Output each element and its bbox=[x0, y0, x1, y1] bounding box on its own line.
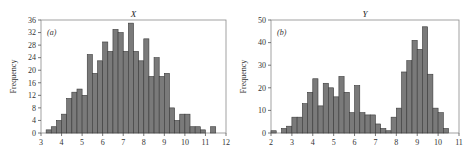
y-tick-label: 32 bbox=[28, 28, 36, 37]
histogram-bar bbox=[46, 130, 51, 133]
histogram-bar bbox=[433, 108, 438, 133]
chart-title: X bbox=[130, 9, 137, 19]
histogram-bar bbox=[134, 51, 139, 133]
chart-title: Y bbox=[362, 9, 368, 19]
histogram-bar bbox=[211, 127, 216, 133]
histogram-bar bbox=[67, 98, 72, 133]
histogram-bar bbox=[313, 79, 318, 133]
histogram-bar bbox=[103, 42, 108, 133]
x-tick-label: 2 bbox=[269, 138, 273, 147]
x-tick-label: 12 bbox=[222, 138, 230, 147]
histogram-bar bbox=[139, 61, 144, 133]
histogram-bar bbox=[190, 127, 195, 133]
histogram-bar bbox=[185, 114, 190, 133]
histogram-bar bbox=[169, 108, 174, 133]
histogram-bar bbox=[292, 117, 297, 133]
histogram-bar bbox=[438, 113, 443, 133]
histogram-bar bbox=[287, 126, 292, 133]
histogram-bar bbox=[323, 83, 328, 133]
histogram-bar bbox=[128, 23, 133, 133]
histogram-bar bbox=[164, 73, 169, 133]
histogram-bar bbox=[334, 97, 339, 133]
y-tick-label: 36 bbox=[28, 16, 36, 25]
histogram-bar bbox=[62, 114, 67, 133]
histogram-bar bbox=[381, 128, 386, 133]
histogram-bar bbox=[144, 39, 149, 133]
histogram-bar bbox=[407, 61, 412, 133]
histogram-bar bbox=[159, 77, 164, 134]
histogram-bar bbox=[149, 77, 154, 134]
histogram-bar bbox=[412, 40, 417, 133]
x-tick-label: 4 bbox=[311, 138, 315, 147]
histogram-bar bbox=[443, 128, 448, 133]
histogram-bar bbox=[72, 92, 77, 133]
y-axis-label: Frequency bbox=[239, 60, 248, 94]
histogram-bar bbox=[339, 77, 344, 134]
x-tick-label: 10 bbox=[434, 138, 442, 147]
histogram-bar bbox=[195, 127, 200, 133]
histogram-bar bbox=[355, 86, 360, 133]
histogram-bar bbox=[396, 108, 401, 133]
x-tick-label: 11 bbox=[455, 138, 463, 147]
histogram-bar bbox=[386, 131, 391, 133]
y-tick-label: 30 bbox=[258, 61, 266, 70]
y-tick-label: 40 bbox=[258, 38, 266, 47]
x-tick-label: 9 bbox=[162, 138, 166, 147]
histogram-bar bbox=[118, 33, 123, 133]
x-tick-label: 8 bbox=[394, 138, 398, 147]
y-tick-label: 20 bbox=[258, 84, 266, 93]
histogram-figure: 345678910111204812162024283236X(a)Freque… bbox=[0, 0, 469, 156]
histogram-x-panel: 345678910111204812162024283236X(a)Freque… bbox=[9, 9, 230, 147]
histogram-bar bbox=[365, 115, 370, 133]
histogram-bar bbox=[77, 89, 82, 133]
y-tick-label: 12 bbox=[28, 91, 36, 100]
histogram-bar bbox=[328, 88, 333, 133]
histogram-bar bbox=[87, 55, 92, 133]
histogram-bar bbox=[370, 115, 375, 133]
x-tick-label: 8 bbox=[142, 138, 146, 147]
histogram-bar bbox=[51, 127, 56, 133]
x-tick-label: 6 bbox=[101, 138, 105, 147]
y-tick-label: 0 bbox=[262, 129, 266, 138]
y-tick-label: 4 bbox=[32, 116, 36, 125]
histogram-bar bbox=[417, 49, 422, 133]
histogram-bar bbox=[344, 92, 349, 133]
histogram-bar bbox=[175, 120, 180, 133]
x-tick-label: 5 bbox=[332, 138, 336, 147]
histogram-bar bbox=[391, 117, 396, 133]
panel-label: (a) bbox=[47, 28, 57, 37]
histogram-bar bbox=[297, 117, 302, 133]
x-tick-label: 11 bbox=[202, 138, 210, 147]
y-tick-label: 0 bbox=[32, 129, 36, 138]
x-tick-label: 7 bbox=[121, 138, 125, 147]
histogram-bar bbox=[56, 120, 61, 133]
histogram-bar bbox=[281, 128, 286, 133]
y-tick-label: 24 bbox=[28, 53, 36, 62]
x-tick-label: 7 bbox=[373, 138, 377, 147]
histogram-bar bbox=[428, 74, 433, 133]
histogram-bar bbox=[308, 92, 313, 133]
x-tick-label: 5 bbox=[80, 138, 84, 147]
histogram-bar bbox=[200, 130, 205, 133]
y-tick-label: 8 bbox=[32, 104, 36, 113]
y-tick-label: 20 bbox=[28, 66, 36, 75]
x-tick-label: 3 bbox=[290, 138, 294, 147]
histogram-bar bbox=[271, 131, 276, 133]
histogram-bar bbox=[82, 95, 87, 133]
x-tick-label: 10 bbox=[181, 138, 189, 147]
x-tick-label: 9 bbox=[415, 138, 419, 147]
histogram-bar bbox=[422, 27, 427, 133]
y-tick-label: 16 bbox=[28, 79, 36, 88]
y-axis-label: Frequency bbox=[9, 60, 18, 94]
histogram-y-panel: 23456789101101020304050Y(b)Frequency bbox=[239, 9, 463, 147]
histogram-bar bbox=[123, 51, 128, 133]
histogram-bar bbox=[375, 124, 380, 133]
histogram-bar bbox=[113, 29, 118, 133]
y-tick-label: 28 bbox=[28, 41, 36, 50]
panel-label: (b) bbox=[277, 28, 287, 37]
histogram-bar bbox=[402, 72, 407, 133]
x-tick-label: 3 bbox=[39, 138, 43, 147]
y-tick-label: 10 bbox=[258, 106, 266, 115]
histogram-bar bbox=[92, 73, 97, 133]
histogram-bar bbox=[98, 61, 103, 133]
